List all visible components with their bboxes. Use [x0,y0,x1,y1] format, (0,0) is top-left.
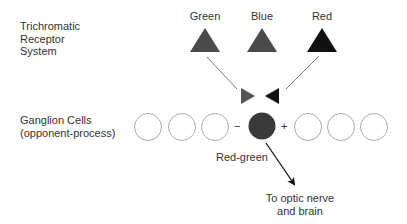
excitatory-sign: + [281,120,287,133]
ganglion-cell [135,114,162,141]
output-label-line1: To optic nerve [250,192,350,205]
blue-receptor-triangle [247,28,277,52]
ganglion-label-line1: Ganglion Cells [20,114,115,127]
active-ganglion-cell [249,113,276,140]
green-connection-line [207,57,237,89]
output-destination-label: To optic nerve and brain [250,192,350,217]
red-receptor-label: Red [302,10,342,23]
green-receptor-triangle [190,28,220,52]
output-label-line2: and brain [250,205,350,218]
excitatory-input-triangle [241,88,255,104]
receptor-system-label: Trichromatic Receptor System [20,20,80,58]
receptor-label-line3: System [20,45,80,58]
ganglion-cell [295,114,322,141]
red-green-channel-label: Red-green [216,151,268,164]
ganglion-cell [202,114,229,141]
ganglion-cell [361,114,388,141]
receptor-label-line1: Trichromatic [20,20,80,33]
inhibitory-sign: − [234,120,240,133]
ganglion-cells-label: Ganglion Cells (opponent-process) [20,114,115,139]
ganglion-label-line2: (opponent-process) [20,127,115,140]
blue-receptor-label: Blue [242,10,282,23]
ganglion-cell [169,114,196,141]
red-connection-line [286,56,319,89]
output-arrow [266,143,294,184]
ganglion-cell [328,114,355,141]
inhibitory-input-triangle [265,88,279,104]
green-receptor-label: Green [185,10,225,23]
receptor-label-line2: Receptor [20,33,80,46]
red-receptor-triangle [307,28,337,52]
